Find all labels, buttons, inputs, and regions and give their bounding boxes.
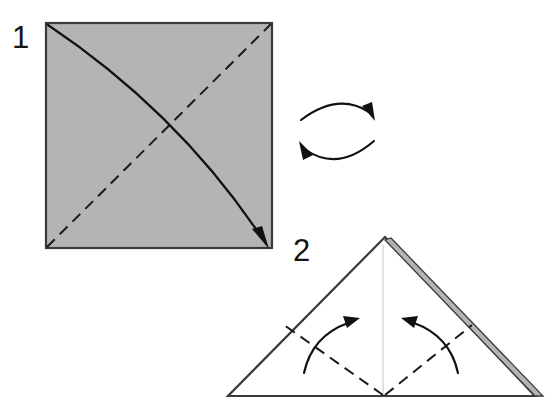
diagram-canvas: 1 2 (0, 0, 556, 414)
turn-over-symbol (299, 102, 375, 160)
turn-over-lower-arrow-head (299, 141, 313, 160)
step-1-number: 1 (12, 20, 29, 55)
step-1-group: 1 (12, 20, 272, 249)
turn-over-upper-arrow-head (362, 102, 375, 121)
step-2-paper-triangle (228, 237, 535, 396)
turn-over-upper-arc (301, 104, 369, 120)
turn-over-lower-arc (306, 141, 374, 159)
step-2-number: 2 (293, 233, 310, 268)
origami-diagram: 1 2 (0, 0, 556, 414)
step-2-group: 2 (228, 233, 543, 396)
